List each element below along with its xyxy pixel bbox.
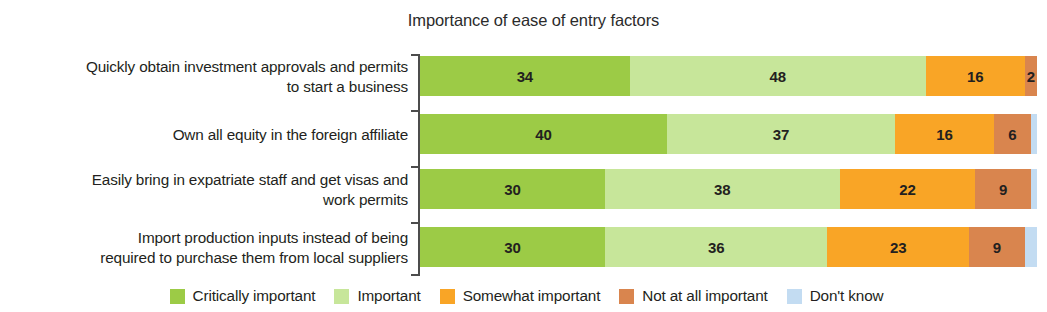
legend-swatch-icon bbox=[619, 289, 634, 304]
legend-label: Don't know bbox=[810, 287, 884, 305]
bar-segment: 34 bbox=[420, 56, 630, 96]
category-label: Quickly obtain investment approvals and … bbox=[0, 57, 408, 96]
bar-segment: 9 bbox=[969, 227, 1025, 267]
axis-tick-3 bbox=[411, 222, 419, 224]
category-label: Import production inputs instead of bein… bbox=[0, 228, 408, 267]
bar-segment bbox=[1031, 169, 1037, 209]
stacked-bar-track: 4037166 bbox=[420, 114, 1037, 154]
bar-segment: 23 bbox=[827, 227, 969, 267]
legend-item[interactable]: Somewhat important bbox=[440, 287, 601, 305]
bar-segment-value: 30 bbox=[504, 239, 521, 256]
bar-segment-value: 48 bbox=[770, 68, 787, 85]
category-label: Easily bring in expatriate staff and get… bbox=[0, 170, 408, 209]
bar-segment: 38 bbox=[605, 169, 839, 209]
legend-item[interactable]: Critically important bbox=[170, 287, 316, 305]
stacked-bar-track: 3448162 bbox=[420, 56, 1037, 96]
bar-segment: 9 bbox=[975, 169, 1031, 209]
axis-tick-2 bbox=[411, 166, 419, 168]
bar-segment-value: 9 bbox=[999, 181, 1007, 198]
bar-segment-value: 34 bbox=[517, 68, 534, 85]
axis-tick-4 bbox=[411, 274, 419, 276]
bar-segment: 22 bbox=[840, 169, 976, 209]
chart-title: Importance of ease of entry factors bbox=[0, 11, 1047, 30]
legend-item[interactable]: Not at all important bbox=[619, 287, 767, 305]
legend-label: Somewhat important bbox=[463, 287, 601, 305]
bar-row: Own all equity in the foreign affiliate4… bbox=[0, 114, 1047, 154]
bar-segment: 2 bbox=[1025, 56, 1037, 96]
category-label: Own all equity in the foreign affiliate bbox=[0, 125, 408, 145]
bar-segment: 30 bbox=[420, 227, 605, 267]
legend-swatch-icon bbox=[787, 289, 802, 304]
legend-item[interactable]: Important bbox=[334, 287, 420, 305]
stacked-bar-track: 3036239 bbox=[420, 227, 1037, 267]
bar-segment-value: 23 bbox=[890, 239, 907, 256]
legend-label: Critically important bbox=[193, 287, 316, 305]
legend-swatch-icon bbox=[170, 289, 185, 304]
bar-row: Easily bring in expatriate staff and get… bbox=[0, 169, 1047, 209]
chart-legend: Critically importantImportantSomewhat im… bbox=[0, 283, 1047, 309]
axis-tick-1 bbox=[411, 110, 419, 112]
bar-segment-value: 37 bbox=[773, 126, 790, 143]
bar-segment bbox=[1025, 227, 1037, 267]
legend-swatch-icon bbox=[334, 289, 349, 304]
legend-swatch-icon bbox=[440, 289, 455, 304]
bar-segment: 36 bbox=[605, 227, 827, 267]
bar-segment-value: 22 bbox=[899, 181, 916, 198]
bar-segment-value: 6 bbox=[1008, 126, 1016, 143]
bar-segment: 48 bbox=[630, 56, 926, 96]
legend-label: Important bbox=[357, 287, 420, 305]
legend-item[interactable]: Don't know bbox=[787, 287, 884, 305]
bar-segment-value: 38 bbox=[714, 181, 731, 198]
bar-segment bbox=[1031, 114, 1037, 154]
stacked-bar-chart: Importance of ease of entry factors Quic… bbox=[0, 0, 1047, 312]
bar-segment-value: 30 bbox=[504, 181, 521, 198]
bar-segment-value: 9 bbox=[993, 239, 1001, 256]
bar-row: Quickly obtain investment approvals and … bbox=[0, 56, 1047, 96]
bar-segment-value: 16 bbox=[967, 68, 984, 85]
bar-segment: 6 bbox=[994, 114, 1031, 154]
stacked-bar-track: 3038229 bbox=[420, 169, 1037, 209]
bar-segment: 37 bbox=[667, 114, 895, 154]
bar-segment: 40 bbox=[420, 114, 667, 154]
bar-segment-value: 16 bbox=[936, 126, 953, 143]
bar-segment: 30 bbox=[420, 169, 605, 209]
bar-row: Import production inputs instead of bein… bbox=[0, 227, 1047, 267]
bar-segment-value: 2 bbox=[1027, 68, 1035, 85]
plot-area: Quickly obtain investment approvals and … bbox=[0, 50, 1047, 278]
bar-segment-value: 40 bbox=[535, 126, 552, 143]
legend-label: Not at all important bbox=[642, 287, 767, 305]
bar-segment: 16 bbox=[895, 114, 994, 154]
bar-segment-value: 36 bbox=[708, 239, 725, 256]
bar-segment: 16 bbox=[926, 56, 1025, 96]
